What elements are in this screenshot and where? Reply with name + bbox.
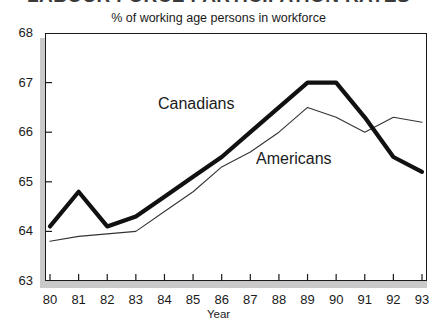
x-axis-tick-label: 81 bbox=[67, 293, 91, 307]
x-axis-tick-label: 87 bbox=[238, 293, 262, 307]
x-axis-tick-label: 91 bbox=[353, 293, 377, 307]
plot-area bbox=[45, 33, 427, 281]
y-axis-tick-label: 67 bbox=[19, 76, 33, 89]
series-label-americans: Americans bbox=[256, 150, 332, 167]
x-tick-marks bbox=[50, 274, 422, 281]
series-line-canadians bbox=[50, 83, 422, 227]
series-label-canadians: Canadians bbox=[158, 95, 235, 112]
y-tick-marks bbox=[45, 83, 52, 232]
x-axis-tick-label: 89 bbox=[296, 293, 320, 307]
chart-headline: LABOUR FORCE PARTICIPATION RATES bbox=[27, 0, 410, 7]
x-axis-tick-label: 83 bbox=[124, 293, 148, 307]
x-axis-tick-label: 82 bbox=[95, 293, 119, 307]
x-axis-tick-label: 92 bbox=[381, 293, 405, 307]
y-axis-labels: 636465666768 bbox=[0, 0, 40, 325]
x-axis-title: Year bbox=[0, 308, 437, 321]
y-axis-tick-label: 63 bbox=[19, 274, 33, 287]
x-axis-tick-label: 90 bbox=[324, 293, 348, 307]
x-axis-tick-label: 84 bbox=[152, 293, 176, 307]
headline-strip: LABOUR FORCE PARTICIPATION RATES bbox=[0, 0, 437, 7]
y-axis-tick-label: 68 bbox=[19, 26, 33, 39]
chart-container: LABOUR FORCE PARTICIPATION RATES % of wo… bbox=[0, 0, 437, 325]
x-axis-tick-label: 88 bbox=[267, 293, 291, 307]
x-axis-tick-label: 85 bbox=[181, 293, 205, 307]
series-line-americans bbox=[50, 107, 422, 241]
chart-subtitle: % of working age persons in workforce bbox=[0, 11, 437, 25]
y-axis-tick-label: 66 bbox=[19, 125, 33, 138]
y-axis-tick-label: 64 bbox=[19, 224, 33, 237]
x-axis-tick-label: 93 bbox=[410, 293, 434, 307]
x-axis-tick-label: 80 bbox=[38, 293, 62, 307]
x-axis-tick-label: 86 bbox=[210, 293, 234, 307]
y-axis-tick-label: 65 bbox=[19, 175, 33, 188]
